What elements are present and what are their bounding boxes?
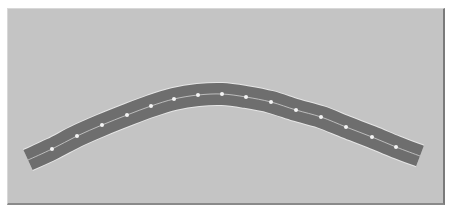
node-dot — [394, 145, 398, 149]
node-dot — [220, 92, 224, 96]
curved-band — [28, 94, 420, 160]
node-dot — [294, 108, 298, 112]
node-dot — [196, 93, 200, 97]
curved-band-diagram — [0, 0, 450, 214]
node-dot — [244, 95, 248, 99]
node-dot — [370, 135, 374, 139]
node-dot — [100, 123, 104, 127]
node-dot — [269, 100, 273, 104]
node-dot — [50, 147, 54, 151]
node-dot — [125, 113, 129, 117]
node-dot — [149, 104, 153, 108]
band-body — [28, 94, 420, 160]
node-dot — [172, 97, 176, 101]
node-dot — [75, 134, 79, 138]
node-dot — [344, 125, 348, 129]
node-dot — [319, 115, 323, 119]
